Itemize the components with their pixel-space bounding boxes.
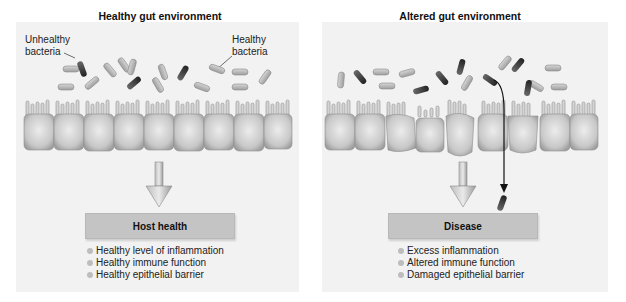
disease-box: Disease <box>388 213 538 239</box>
healthy-bacteria-group <box>58 57 272 94</box>
outcome-item: Healthy immune function <box>86 257 224 269</box>
outcome-item: Altered immune function <box>397 257 524 269</box>
healthy-epithelium <box>24 100 292 151</box>
host-health-outcomes-list: Healthy level of inflammation Healthy im… <box>86 245 224 281</box>
outcome-item: Healthy epithelial barrier <box>86 269 224 281</box>
unhealthy-label-leader <box>64 53 75 58</box>
altered-healthy-bacteria-group <box>337 55 567 93</box>
host-health-box: Host health <box>85 213 235 239</box>
damaged-epithelium <box>325 100 598 156</box>
translocation-arrowhead <box>500 184 508 193</box>
translocated-bacterium <box>496 194 507 211</box>
down-arrow-altered <box>450 162 476 207</box>
outcome-item: Excess inflammation <box>397 245 524 257</box>
down-arrow-healthy <box>146 162 172 207</box>
disease-outcomes-list: Excess inflammation Altered immune funct… <box>397 245 524 281</box>
outcome-item: Healthy level of inflammation <box>86 245 224 257</box>
outcome-item: Damaged epithelial barrier <box>397 269 524 281</box>
